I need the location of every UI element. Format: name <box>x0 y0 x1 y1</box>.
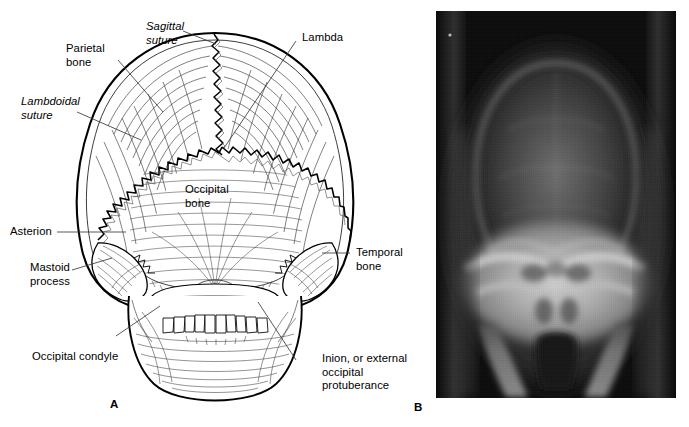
airway-shadow <box>536 332 577 389</box>
mandible <box>128 296 301 401</box>
label-sagittal-suture: Sagittal suture <box>146 20 184 47</box>
label-lambdoidal-suture: Lambdoidal suture <box>21 95 80 122</box>
label-occipital-condyle: Occipital condyle <box>32 350 118 364</box>
panel-a-line-drawing: Sagittal suture Parietal bone Lambdoidal… <box>0 0 430 427</box>
panel-b-radiograph <box>436 11 676 398</box>
label-occipital-bone: Occipital bone <box>185 183 229 210</box>
label-parietal-bone: Parietal bone <box>66 42 105 69</box>
label-mastoid-process: Mastoid process <box>30 261 70 288</box>
panel-letter-b: B <box>414 401 422 413</box>
film-marker-dot <box>448 33 451 36</box>
anatomy-figure: Sagittal suture Parietal bone Lambdoidal… <box>0 0 689 427</box>
label-asterion: Asterion <box>10 225 52 239</box>
skull-radiograph-image <box>436 11 676 398</box>
label-inion: Inion, or external occipital protuberanc… <box>322 352 407 393</box>
panel-letter-a: A <box>110 398 118 410</box>
label-temporal-bone: Temporal bone <box>356 246 403 273</box>
label-lambda: Lambda <box>302 31 343 45</box>
